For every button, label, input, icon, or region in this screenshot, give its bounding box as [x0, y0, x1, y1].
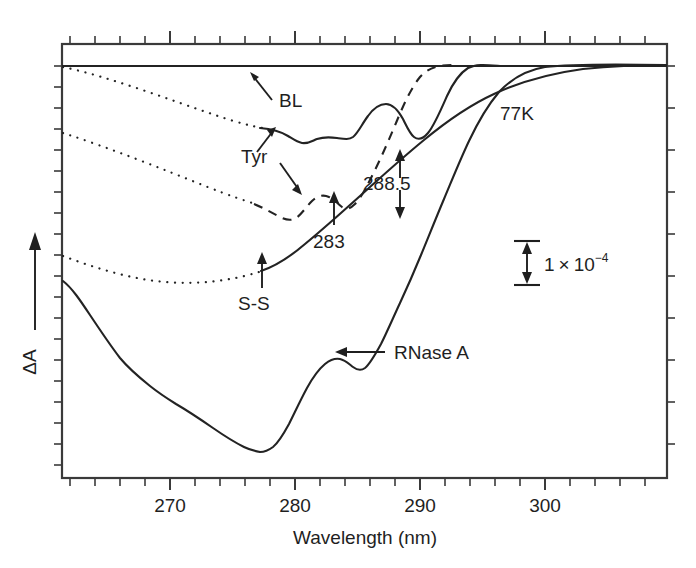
- x-axis-title: Wavelength (nm): [293, 527, 437, 548]
- annotation-77k-label: 77K: [500, 103, 534, 124]
- annotation-288-5-label: 288.5: [363, 173, 411, 194]
- annotation-283-label: 283: [313, 231, 345, 252]
- scale-bar-times: ×: [559, 254, 570, 275]
- scale-bar-mantissa: 1: [544, 254, 555, 275]
- x-tick-label-290: 290: [404, 495, 436, 516]
- annotation-ss-label: S-S: [238, 293, 270, 314]
- difference-spectrum-chart: BL Tyr S-S 283 288.5: [0, 0, 696, 568]
- x-tick-label-280: 280: [279, 495, 311, 516]
- chart-background: [0, 0, 696, 568]
- annotation-tyr-label: Tyr: [241, 146, 268, 167]
- scale-bar-base: 10: [574, 254, 595, 275]
- annotation-rnase-a-label: RNase A: [394, 342, 469, 363]
- y-axis-title: ΔA: [19, 349, 40, 375]
- x-tick-label-270: 270: [154, 495, 186, 516]
- figure-container: BL Tyr S-S 283 288.5: [0, 0, 696, 568]
- x-tick-label-300: 300: [529, 495, 561, 516]
- annotation-bl-label: BL: [279, 90, 302, 111]
- scale-bar-exponent: −4: [595, 251, 609, 265]
